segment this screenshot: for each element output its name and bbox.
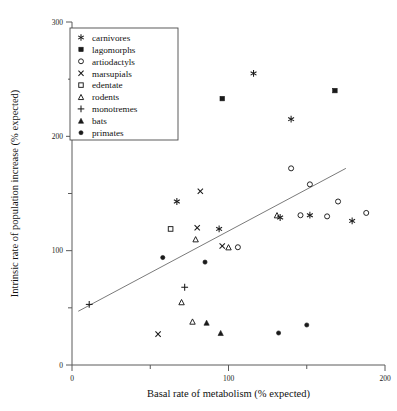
legend-label-bats: bats bbox=[92, 116, 107, 126]
legend-label-artiodactyls: artiodactyls bbox=[92, 57, 135, 67]
point-bats bbox=[218, 330, 223, 335]
scatter-plot: 01002003000100200Basal rate of metabolis… bbox=[0, 0, 397, 411]
series-lagomorphs bbox=[220, 88, 337, 100]
legend-label-primates: primates bbox=[92, 128, 124, 138]
point-carnivores bbox=[307, 212, 313, 219]
point-marsupials bbox=[220, 243, 225, 248]
point-marsupials bbox=[198, 189, 203, 194]
point-rodents bbox=[193, 237, 198, 242]
point-primates bbox=[161, 255, 165, 259]
legend: carnivoreslagomorphsartiodactylsmarsupia… bbox=[70, 28, 178, 140]
legend-label-monotremes: monotremes bbox=[92, 104, 138, 114]
series-carnivores bbox=[174, 70, 355, 232]
series-bats bbox=[204, 320, 223, 335]
y-axis-ticks: 0100200300 bbox=[52, 18, 72, 370]
point-primates bbox=[305, 323, 309, 327]
legend-marker-filled-circle bbox=[79, 131, 83, 135]
series-artiodactyls bbox=[235, 166, 368, 250]
y-tick-label: 200 bbox=[52, 132, 64, 141]
trend-line bbox=[78, 168, 346, 311]
x-tick-label: 100 bbox=[223, 374, 235, 383]
point-artiodactyls bbox=[336, 199, 341, 204]
x-axis-title: Basal rate of metabolism (% expected) bbox=[147, 388, 310, 400]
point-artiodactyls bbox=[307, 182, 312, 187]
point-rodents bbox=[190, 319, 195, 324]
series-monotremes bbox=[86, 284, 188, 308]
point-monotremes bbox=[181, 284, 188, 291]
point-artiodactyls bbox=[325, 214, 330, 219]
point-carnivores bbox=[288, 116, 294, 123]
point-lagomorphs bbox=[333, 88, 337, 92]
x-axis-ticks: 0100200 bbox=[70, 365, 391, 383]
point-lagomorphs bbox=[220, 96, 224, 100]
legend-label-rodents: rodents bbox=[92, 92, 119, 102]
series-edentate bbox=[168, 227, 173, 232]
point-bats bbox=[204, 320, 209, 325]
point-rodents bbox=[226, 245, 231, 250]
y-tick-label: 100 bbox=[52, 246, 64, 255]
legend-label-marsupials: marsupials bbox=[92, 69, 132, 79]
y-axis-title: Intrinsic rate of population increase (%… bbox=[9, 89, 21, 297]
point-edentate bbox=[168, 227, 173, 232]
legend-label-edentate: edentate bbox=[92, 80, 123, 90]
x-tick-label: 0 bbox=[70, 374, 74, 383]
point-rodents bbox=[179, 299, 184, 304]
y-tick-label: 300 bbox=[52, 18, 64, 27]
point-artiodactyls bbox=[289, 166, 294, 171]
legend-label-lagomorphs: lagomorphs bbox=[92, 45, 136, 55]
point-primates bbox=[276, 331, 280, 335]
legend-marker-filled-square bbox=[79, 47, 83, 51]
point-carnivores bbox=[174, 198, 180, 205]
point-artiodactyls bbox=[298, 213, 303, 218]
series-marsupials bbox=[155, 189, 224, 337]
y-tick-label: 0 bbox=[59, 361, 63, 370]
x-tick-label: 200 bbox=[379, 374, 391, 383]
point-carnivores bbox=[349, 218, 355, 225]
point-marsupials bbox=[155, 331, 160, 336]
point-marsupials bbox=[195, 225, 200, 230]
point-rodents bbox=[274, 213, 279, 218]
figure-container: 01002003000100200Basal rate of metabolis… bbox=[0, 0, 397, 411]
series-primates bbox=[161, 255, 309, 335]
point-carnivores bbox=[216, 226, 222, 233]
point-artiodactyls bbox=[364, 210, 369, 215]
legend-label-carnivores: carnivores bbox=[92, 33, 131, 43]
point-carnivores bbox=[251, 70, 257, 77]
point-primates bbox=[203, 260, 207, 264]
series-rodents bbox=[179, 213, 280, 325]
point-artiodactyls bbox=[235, 245, 240, 250]
